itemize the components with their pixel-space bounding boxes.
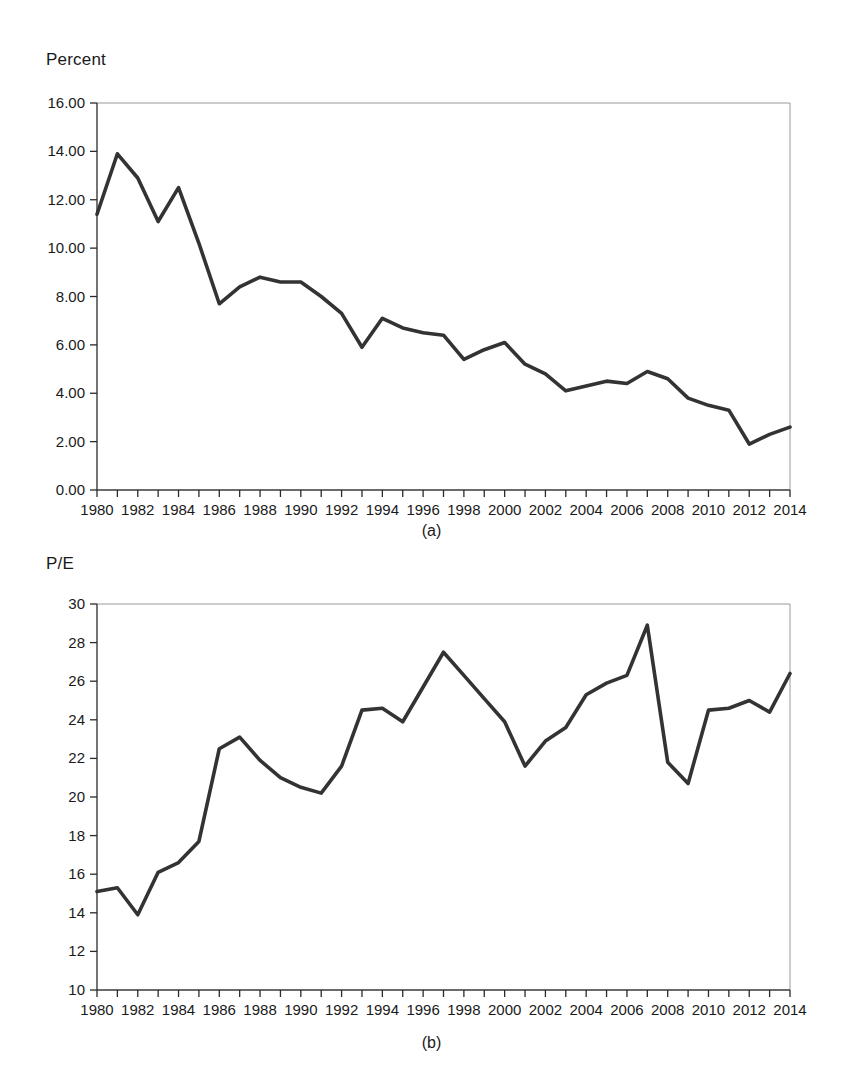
x-tick-label: 1994 [366,501,399,518]
y-tick-label: 4.00 [56,384,85,401]
data-series-line [97,625,790,915]
x-tick-label: 1992 [325,501,358,518]
y-tick-label: 8.00 [56,288,85,305]
x-tick-label: 1988 [243,1001,276,1018]
x-tick-label: 1996 [406,1001,439,1018]
x-tick-label: 1996 [406,501,439,518]
x-tick-label: 2006 [610,1001,643,1018]
panel-caption-b: (b) [0,1034,863,1052]
x-tick-label: 1980 [80,1001,113,1018]
y-tick-label: 30 [68,595,85,612]
x-tick-label: 1994 [366,1001,399,1018]
y-axis-title-a: Percent [46,50,106,70]
y-tick-label: 0.00 [56,481,85,498]
y-tick-label: 12 [68,942,85,959]
x-tick-label: 1984 [162,501,195,518]
y-tick-label: 28 [68,634,85,651]
x-tick-label: 2010 [692,1001,725,1018]
x-tick-label: 1992 [325,1001,358,1018]
line-chart-b: 1012141618202224262830198019821984198619… [0,576,863,1026]
y-tick-label: 22 [68,749,85,766]
y-tick-label: 10 [68,981,85,998]
x-tick-label: 1982 [121,1001,154,1018]
x-tick-label: 1998 [447,501,480,518]
line-chart-a: 0.002.004.006.008.0010.0012.0014.0016.00… [0,72,863,522]
x-tick-label: 2014 [773,1001,806,1018]
x-tick-label: 2002 [529,1001,562,1018]
x-tick-label: 2004 [569,1001,602,1018]
y-tick-label: 2.00 [56,433,85,450]
x-tick-label: 2000 [488,1001,521,1018]
x-tick-label: 1986 [203,501,236,518]
x-tick-label: 1990 [284,1001,317,1018]
y-tick-label: 24 [68,711,85,728]
x-tick-label: 2002 [529,501,562,518]
x-tick-label: 2008 [651,1001,684,1018]
x-tick-label: 1982 [121,501,154,518]
y-tick-label: 16.00 [47,94,85,111]
x-tick-label: 2010 [692,501,725,518]
x-tick-label: 2014 [773,501,806,518]
y-tick-label: 10.00 [47,239,85,256]
y-tick-label: 26 [68,672,85,689]
y-tick-label: 6.00 [56,336,85,353]
x-tick-label: 2000 [488,501,521,518]
y-tick-label: 20 [68,788,85,805]
y-tick-label: 16 [68,865,85,882]
figure-page: Percent 0.002.004.006.008.0010.0012.0014… [0,0,863,1072]
x-tick-label: 1988 [243,501,276,518]
x-tick-label: 1980 [80,501,113,518]
x-tick-label: 1990 [284,501,317,518]
chart-panel-b: P/E 101214161820222426283019801982198419… [0,536,863,1072]
x-tick-label: 2008 [651,501,684,518]
data-series-line [97,154,790,444]
y-tick-label: 18 [68,827,85,844]
chart-panel-a: Percent 0.002.004.006.008.0010.0012.0014… [0,0,863,560]
y-tick-label: 14 [68,904,85,921]
y-tick-label: 12.00 [47,191,85,208]
x-tick-label: 1986 [203,1001,236,1018]
y-tick-label: 14.00 [47,142,85,159]
x-tick-label: 2006 [610,501,643,518]
y-axis-title-b: P/E [46,554,74,574]
x-tick-label: 1998 [447,1001,480,1018]
x-tick-label: 2012 [733,1001,766,1018]
x-tick-label: 2004 [569,501,602,518]
x-tick-label: 2012 [733,501,766,518]
x-tick-label: 1984 [162,1001,195,1018]
